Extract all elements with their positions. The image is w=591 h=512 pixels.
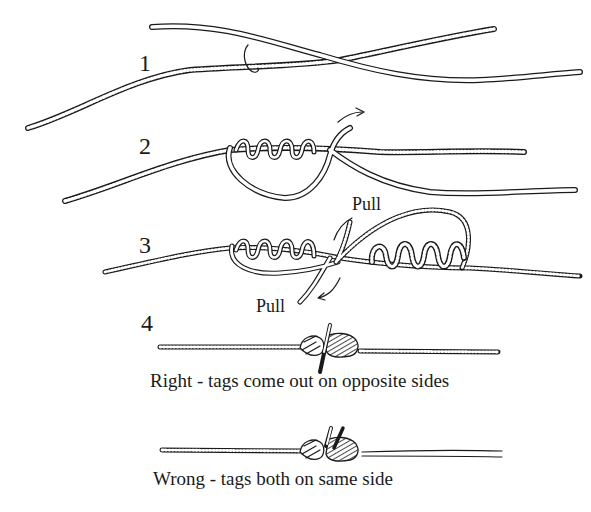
pull-label-bottom: Pull (256, 296, 285, 317)
caption-right: Right - tags come out on opposite sides (150, 370, 449, 392)
step-1-lines (28, 26, 580, 128)
step-4-number: 4 (141, 310, 153, 337)
step-4-wrong-knot (162, 428, 502, 461)
step-3-number: 3 (139, 232, 151, 259)
knot-diagram: 1 2 3 Pull Pull 4 Right - tags come out … (0, 0, 591, 512)
pull-label-top: Pull (352, 194, 381, 215)
knot-illustration (0, 0, 591, 512)
step-4-right-knot (160, 325, 498, 372)
caption-wrong: Wrong - tags both on same side (153, 468, 393, 490)
step-1-number: 1 (139, 50, 151, 77)
step-3-lines (105, 210, 580, 302)
step-2-number: 2 (139, 133, 151, 160)
